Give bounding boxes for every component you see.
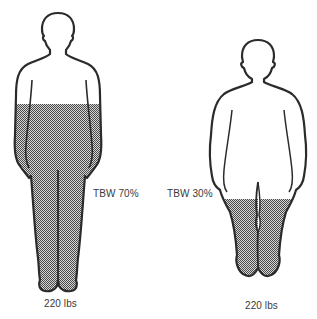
lean-tbw-label: TBW 70% bbox=[93, 188, 139, 199]
lean-figure bbox=[15, 13, 102, 291]
obese-weight-label: 220 lbs bbox=[245, 300, 278, 311]
obese-tbw-label: TBW 30% bbox=[167, 188, 213, 199]
obese-figure bbox=[210, 40, 306, 276]
tbw-comparison-diagram bbox=[0, 0, 317, 319]
lean-weight-label: 220 lbs bbox=[44, 298, 77, 309]
